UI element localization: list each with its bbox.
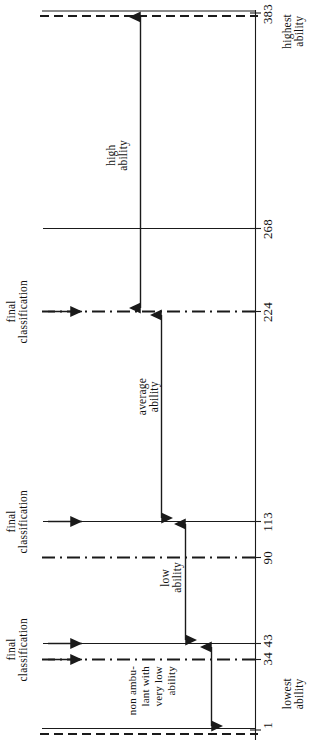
final-classification-label-113: final classification	[6, 490, 30, 553]
band-label-non-ambulant-line1: non ambu-	[127, 666, 138, 715]
tick-label-90: 90	[261, 551, 275, 564]
tick-label-113: 113	[261, 512, 275, 532]
tick-label-1: 1	[261, 722, 275, 729]
tick-label-43: 43	[261, 634, 275, 647]
ability-classification-diagram	[0, 0, 335, 750]
band-label-low-ability: low ability	[160, 562, 184, 593]
band-label-non-ambulant-line4: ability	[166, 666, 177, 696]
tick-label-34: 34	[261, 652, 275, 665]
boundary-1	[40, 729, 258, 735]
tick-label-383: 383	[261, 4, 275, 24]
boundary-383	[40, 11, 258, 16]
band-label-non-ambulant-line2: lant with	[140, 666, 151, 707]
final-classification-label-43: final classification	[6, 618, 30, 681]
tick-label-224: 224	[261, 302, 275, 322]
final-classification-label-224: final classification	[6, 280, 30, 343]
endpoint-label-lowest-ability: lowest ability	[282, 678, 306, 709]
band-label-non-ambulant-line3: very low	[153, 666, 164, 706]
band-label-average-ability: average ability	[137, 378, 161, 415]
band-label-high-ability: high ability	[106, 140, 130, 171]
tick-label-268: 268	[261, 219, 275, 239]
endpoint-label-highest-ability: highest ability	[282, 14, 306, 49]
